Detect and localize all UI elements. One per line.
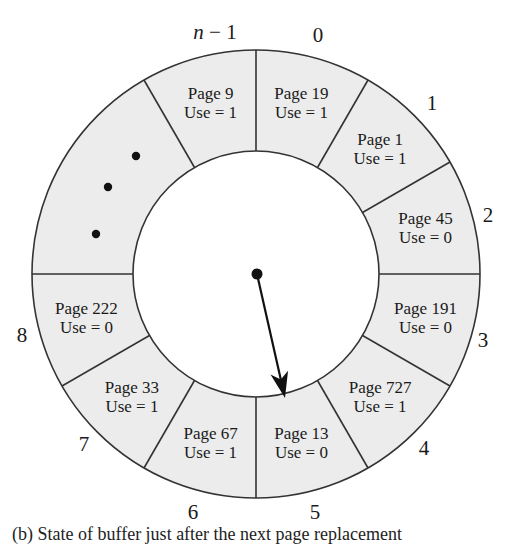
- slot-page-label: Page 13: [274, 424, 328, 443]
- figure-caption: (b) State of buffer just after the next …: [12, 524, 512, 545]
- slot-use-bit: Use = 0: [60, 318, 113, 337]
- slot-index-label: 7: [79, 432, 90, 456]
- slot-page-label: Page 222: [55, 299, 118, 318]
- slot-index-label: 1: [427, 91, 438, 115]
- slot-use-bit: Use = 1: [184, 443, 237, 462]
- clock-pointer: [252, 269, 289, 399]
- slot-index-label: 5: [310, 500, 321, 524]
- slot-page-label: Page 45: [398, 209, 452, 228]
- slot-use-bit: Use = 1: [275, 103, 328, 122]
- slot-use-bit: Use = 0: [275, 443, 328, 462]
- slot-use-bit: Use = 0: [399, 318, 452, 337]
- slot-page-label: Page 67: [183, 424, 238, 443]
- slot-use-bit: Use = 1: [354, 397, 407, 416]
- ellipsis-dot-icon: [132, 152, 140, 160]
- slot-index-label: 0: [313, 23, 324, 47]
- slot-use-bit: Use = 1: [184, 103, 237, 122]
- slot-page-label: Page 19: [274, 84, 328, 103]
- pointer-shaft: [257, 274, 281, 380]
- slot-page-label: Page 191: [394, 299, 457, 318]
- slot-page-label: Page 1: [357, 130, 403, 149]
- slot-page-label: Page 727: [349, 378, 412, 397]
- slot-page-label: Page 9: [188, 84, 234, 103]
- slot-index-label: 2: [483, 203, 494, 227]
- slot-index-label: 8: [17, 323, 28, 347]
- slot-use-bit: Use = 0: [399, 228, 452, 247]
- slot-index-label: 6: [188, 500, 199, 524]
- slot-use-bit: Use = 1: [354, 149, 407, 168]
- ellipsis-dot-icon: [104, 183, 112, 191]
- slot-page-label: Page 33: [105, 378, 159, 397]
- slot-index-label: n − 1: [193, 20, 236, 44]
- ellipsis-dot-icon: [92, 230, 100, 238]
- slot-use-bit: Use = 1: [105, 397, 158, 416]
- slot-index-label: 4: [419, 436, 430, 460]
- slot-index-label: 3: [478, 328, 489, 352]
